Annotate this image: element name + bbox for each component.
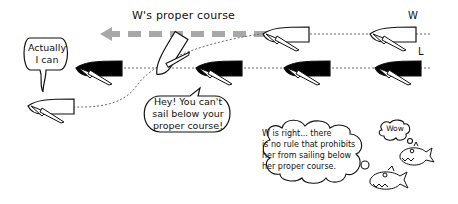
sailing-rules-illustration: W's proper course W L Actually I can Hey…	[0, 0, 458, 204]
fish-lower	[370, 166, 408, 189]
thought-text-fish: Wow	[383, 124, 407, 134]
leeward-boat-2	[196, 61, 242, 85]
leeward-boat-1	[76, 61, 122, 85]
windward-boat-2	[370, 27, 416, 51]
thought-text-narrator: W is right... there is no rule that proh…	[262, 128, 362, 172]
windward-boat-1	[263, 27, 309, 51]
boat-label-windward: W	[408, 10, 418, 21]
leeward-boat-4	[375, 61, 421, 85]
speech-text-windward: Hey! You can't sail below your proper co…	[143, 96, 233, 132]
speech-text-leeward: Actually I can	[24, 42, 70, 66]
leeward-boat-3	[284, 61, 330, 85]
windward-boat-low	[28, 99, 74, 123]
proper-course-label: W's proper course	[132, 9, 235, 22]
windward-boat-turning	[151, 32, 196, 84]
boat-label-leeward: L	[418, 46, 424, 57]
fish-upper	[400, 142, 434, 165]
